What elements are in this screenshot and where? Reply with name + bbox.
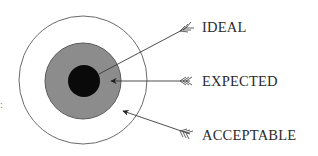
edge-mark: : <box>0 99 3 110</box>
expected-label: EXPECTED <box>202 74 278 89</box>
acceptable-label: ACCEPTABLE <box>202 128 296 143</box>
ideal-label: IDEAL <box>202 20 247 35</box>
ideal-bullseye <box>68 65 100 97</box>
